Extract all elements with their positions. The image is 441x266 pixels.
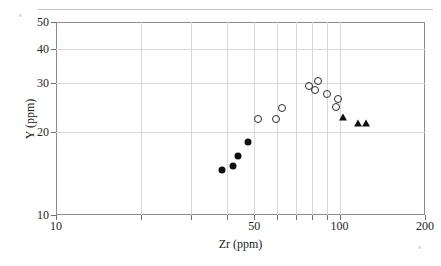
- figure-container: 1020304050 1050100200 Zr (ppm) Y (ppm): [0, 0, 441, 266]
- gridline-horizontal: [56, 49, 425, 50]
- x-tick-label: 100: [331, 220, 349, 232]
- data-point-open-circle: [332, 103, 340, 111]
- data-point-filled-triangle: [362, 119, 370, 126]
- x-tick-mark: [277, 215, 278, 220]
- data-point-open-circle: [272, 115, 280, 123]
- data-point-filled-triangle: [354, 119, 362, 126]
- y-tick-label: 40: [37, 43, 49, 55]
- data-point-open-circle: [254, 115, 262, 123]
- y-axis-title: Y (ppm): [23, 98, 38, 139]
- x-tick-label: 50: [248, 220, 260, 232]
- gridline-horizontal: [56, 83, 425, 84]
- y-tick-mark: [51, 83, 56, 84]
- x-tick-mark: [141, 215, 142, 220]
- data-point-filled-circle: [244, 138, 251, 145]
- y-tick-label: 10: [37, 209, 49, 221]
- top-horizontal-rule: [38, 9, 433, 10]
- data-point-filled-circle: [219, 166, 226, 173]
- y-tick-label: 50: [37, 16, 49, 28]
- x-tick-mark: [327, 215, 328, 220]
- gridline-vertical: [296, 22, 297, 215]
- gridline-vertical: [191, 22, 192, 215]
- data-point-filled-circle: [235, 152, 242, 159]
- x-tick-mark: [227, 215, 228, 220]
- data-point-open-circle: [278, 104, 286, 112]
- y-tick-label: 30: [37, 77, 49, 89]
- data-point-open-circle: [311, 86, 319, 94]
- gridline-vertical: [312, 22, 313, 215]
- y-tick-mark: [51, 49, 56, 50]
- scan-speck-left: [19, 14, 22, 17]
- scatter-plot: 1020304050 1050100200 Zr (ppm) Y (ppm): [56, 22, 425, 215]
- x-tick-label: 200: [416, 220, 434, 232]
- x-tick-mark: [312, 215, 313, 220]
- data-point-open-circle: [323, 90, 331, 98]
- x-axis-title: Zr (ppm): [219, 237, 263, 252]
- gridline-vertical: [327, 22, 328, 215]
- data-point-filled-triangle: [339, 114, 347, 121]
- data-point-open-circle: [314, 77, 322, 85]
- y-tick-mark: [51, 22, 56, 23]
- data-point-open-circle: [334, 95, 342, 103]
- y-tick-mark: [51, 132, 56, 133]
- y-tick-label: 20: [37, 126, 49, 138]
- x-tick-mark: [296, 215, 297, 220]
- gridline-vertical: [141, 22, 142, 215]
- scan-speck-right: [418, 246, 421, 249]
- gridline-horizontal: [56, 132, 425, 133]
- x-tick-label: 10: [50, 220, 62, 232]
- gridline-vertical: [227, 22, 228, 215]
- x-tick-mark: [191, 215, 192, 220]
- data-point-filled-circle: [229, 162, 236, 169]
